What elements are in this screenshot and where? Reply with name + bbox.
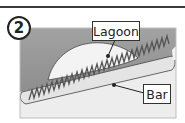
lagoon-callout-dot: [106, 54, 110, 58]
lagoon-label: Lagoon: [92, 21, 140, 41]
step-number-badge: 2: [7, 16, 31, 40]
bar-label: Bar: [143, 84, 171, 104]
lagoon-bar-diagram: [0, 0, 185, 123]
bar-callout-dot: [112, 83, 116, 87]
